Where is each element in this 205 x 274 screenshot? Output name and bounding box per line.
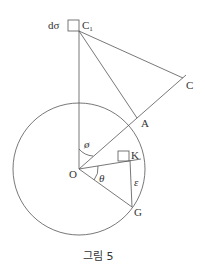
figure-caption: 그림 5 <box>83 250 114 263</box>
label-c: C <box>186 79 193 91</box>
label-theta: θ <box>99 172 105 184</box>
label-g: G <box>134 206 142 218</box>
geometry-diagram: dσ C1 C A K O G ø θ ε 그림 5 <box>0 0 205 274</box>
label-d-sigma: dσ <box>48 19 60 31</box>
angle-arc-phi <box>79 149 93 156</box>
line-o-g <box>79 169 132 207</box>
label-phi: ø <box>83 138 90 150</box>
label-o: O <box>69 168 77 180</box>
label-c1: C1 <box>82 19 93 33</box>
label-a: A <box>141 117 149 129</box>
label-k: K <box>131 149 139 161</box>
area-element-square <box>68 20 79 31</box>
label-epsilon: ε <box>134 176 139 188</box>
angle-arc-theta <box>94 166 98 180</box>
right-angle-marker <box>118 151 129 161</box>
line-k-g <box>130 160 132 207</box>
